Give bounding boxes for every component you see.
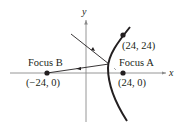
- diagram-canvas: x y Focus B (−24, 0) Focus A (24, 0) (24…: [0, 0, 186, 132]
- curve-point: [120, 32, 125, 37]
- curve-point-coords: (24, 24): [122, 40, 156, 52]
- y-axis-label: y: [81, 6, 87, 17]
- focus-a-point: [120, 70, 125, 75]
- reflected-ray-arrow-icon: [76, 67, 81, 70]
- focus-b-label: Focus B: [28, 57, 63, 68]
- focus-a-coords: (24, 0): [118, 77, 146, 89]
- hyperbola-diagram: x y Focus B (−24, 0) Focus A (24, 0) (24…: [0, 0, 186, 132]
- focus-b-coords: (−24, 0): [26, 77, 60, 89]
- focus-b-point: [44, 70, 49, 75]
- focus-a-label: Focus A: [119, 57, 154, 68]
- x-axis-label: x: [168, 67, 174, 78]
- reflection-tick: [114, 68, 116, 70]
- incident-ray: [71, 34, 109, 64]
